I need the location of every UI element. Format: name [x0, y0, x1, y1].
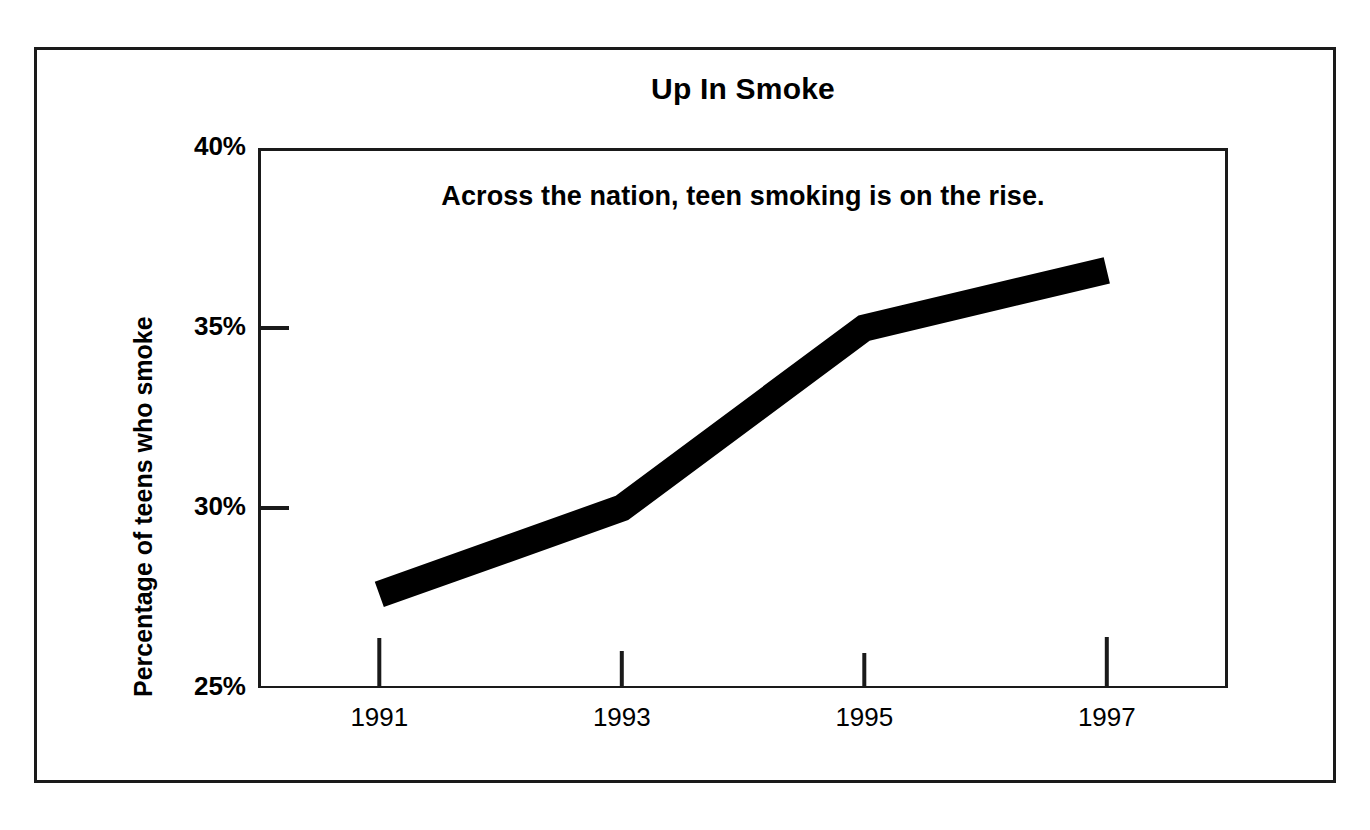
y-tick-label-25: 25% [156, 671, 246, 702]
x-axis-ticks [379, 637, 1107, 686]
chart-figure: Up In Smoke Across the nation, teen smok… [0, 0, 1370, 830]
x-tick-label-1991: 1991 [319, 702, 439, 733]
x-tick-label-1995: 1995 [804, 702, 924, 733]
chart-title: Up In Smoke [258, 72, 1228, 106]
y-axis-ticks [261, 328, 289, 508]
x-axis-tick-labels: 1991 1993 1995 1997 [258, 702, 1228, 742]
y-axis-tick-labels: 40% 35% 30% 25% [152, 148, 246, 688]
y-tick-label-40: 40% [156, 131, 246, 162]
y-tick-label-30: 30% [156, 491, 246, 522]
plot-svg [258, 148, 1228, 688]
y-tick-label-35: 35% [156, 311, 246, 342]
x-tick-label-1997: 1997 [1047, 702, 1167, 733]
plot-area [258, 148, 1228, 688]
data-series-line [379, 270, 1107, 594]
x-tick-label-1993: 1993 [562, 702, 682, 733]
